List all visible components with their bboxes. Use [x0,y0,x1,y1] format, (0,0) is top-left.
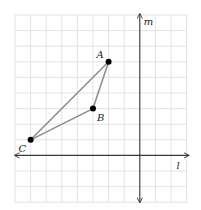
grid [15,15,187,202]
point-B [90,106,96,112]
axis-label-m: m [144,16,153,27]
edge-CA [31,62,109,140]
triangle-edges [31,62,109,140]
coordinate-diagram: l m ABC [0,0,201,210]
axis-label-l: l [177,160,180,171]
point-A [106,59,112,65]
point-label-C: C [19,143,27,154]
axes: l m [15,14,189,202]
triangle-vertices: ABC [19,49,112,154]
point-C [28,137,34,143]
point-label-A: A [96,49,104,60]
point-label-B: B [96,112,104,123]
